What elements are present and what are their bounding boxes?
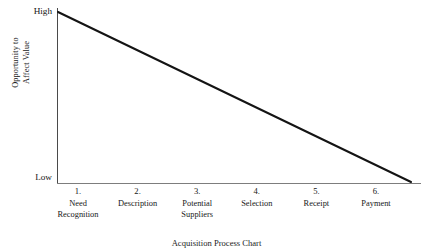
- declining-trend-line: [58, 12, 411, 182]
- x-tick-name-line: Payment: [333, 199, 419, 210]
- acquisition-process-chart: Opportunity to Affect Value High Low 1.N…: [0, 0, 433, 248]
- x-tick-6: 6.Payment: [333, 186, 419, 210]
- x-tick-name-line: Suppliers: [154, 210, 240, 221]
- chart-caption: Acquisition Process Chart: [0, 238, 433, 248]
- x-tick-number: 6.: [333, 186, 419, 197]
- x-tick-name-line: Recognition: [35, 210, 121, 221]
- x-tick-name: Payment: [333, 199, 419, 210]
